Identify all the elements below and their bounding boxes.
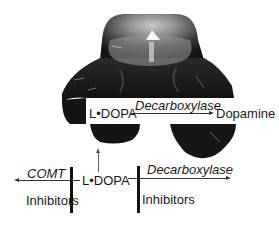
overlay-substrate-label: L•DOPA xyxy=(89,107,137,120)
right-enzyme-label: Decarboxylase xyxy=(147,163,233,176)
right-inhibitor-label: Inhibitors xyxy=(142,193,195,206)
overlay-arrow-head-icon xyxy=(209,111,214,115)
figure: L•DOPA Decarboxylase Dopamine COMT Inhib… xyxy=(0,0,279,226)
overlay-product-label: Dopamine xyxy=(216,107,275,120)
uptake-arrow-head-icon xyxy=(96,148,100,153)
center-substrate-label: L•DOPA xyxy=(82,174,130,187)
right-inhibitor-bar xyxy=(137,166,140,213)
left-inhibitor-label: Inhibitors xyxy=(26,194,79,207)
left-arrow-head-icon xyxy=(14,178,19,182)
left-enzyme-label: COMT xyxy=(27,167,65,180)
right-pathway-arrow-line xyxy=(128,178,227,179)
uptake-arrow-line xyxy=(98,152,99,172)
overlay-reaction-arrow-line xyxy=(131,113,211,114)
